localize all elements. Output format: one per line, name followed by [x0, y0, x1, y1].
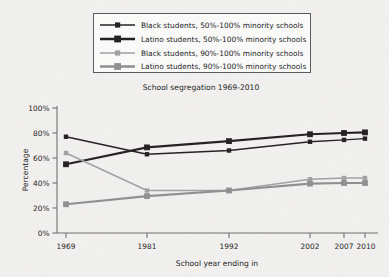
- data-point: [63, 201, 69, 207]
- legend-marker-black-50: [115, 22, 120, 27]
- x-tick-label-1992: 1992: [220, 242, 239, 251]
- data-point: [64, 151, 68, 155]
- data-point: [226, 188, 232, 194]
- legend-marker-black-90: [115, 50, 120, 55]
- x-tick-label-2010: 2010: [357, 242, 376, 251]
- legend-label-latino-90: Latino students, 90%-100% minority schoo…: [141, 62, 306, 71]
- data-point: [341, 180, 347, 186]
- legend-marker-latino-50: [114, 36, 121, 43]
- y-tick-label-40: 40%: [33, 179, 49, 188]
- data-point: [342, 138, 346, 142]
- chart-legend: Black students, 50%-100% minority school…: [94, 14, 311, 73]
- y-axis-title: Percentage: [21, 148, 30, 191]
- x-tick-label-2007: 2007: [335, 242, 354, 251]
- y-tick-label-60: 60%: [33, 154, 49, 163]
- data-point: [144, 144, 150, 150]
- y-tick-label-100: 100%: [28, 104, 49, 113]
- data-point: [362, 180, 368, 186]
- data-point: [145, 188, 149, 192]
- x-tick-label-1969: 1969: [57, 242, 76, 251]
- x-axis-title: School year ending in: [176, 259, 259, 268]
- data-point: [145, 152, 149, 156]
- data-point: [307, 131, 313, 137]
- y-tick-label-20: 20%: [33, 204, 49, 213]
- legend-label-black-90: Black students, 90%-100% minority school…: [141, 49, 304, 58]
- data-point: [227, 148, 231, 152]
- x-tick-label-2002: 2002: [301, 242, 320, 251]
- data-point: [363, 136, 367, 140]
- chart-figure: Black students, 50%-100% minority school…: [0, 0, 389, 277]
- data-point: [64, 135, 68, 139]
- legend-label-black-50: Black students, 50%-100% minority school…: [141, 21, 304, 30]
- data-point: [362, 129, 368, 135]
- data-point: [307, 181, 313, 187]
- data-point: [342, 176, 346, 180]
- data-point: [363, 176, 367, 180]
- x-tick-label-1981: 1981: [138, 242, 157, 251]
- y-tick-label-80: 80%: [33, 129, 49, 138]
- y-tick-label-0: 0%: [38, 229, 50, 238]
- data-point: [144, 193, 150, 199]
- chart-title: School segregation 1969-2010: [143, 83, 260, 92]
- school-segregation-line-chart: Black students, 50%-100% minority school…: [0, 0, 389, 277]
- data-point: [308, 140, 312, 144]
- data-point: [341, 130, 347, 136]
- legend-label-latino-50: Latino students, 50%-100% minority schoo…: [141, 35, 306, 44]
- data-point: [63, 161, 69, 167]
- legend-marker-latino-90: [114, 63, 121, 70]
- data-point: [226, 138, 232, 144]
